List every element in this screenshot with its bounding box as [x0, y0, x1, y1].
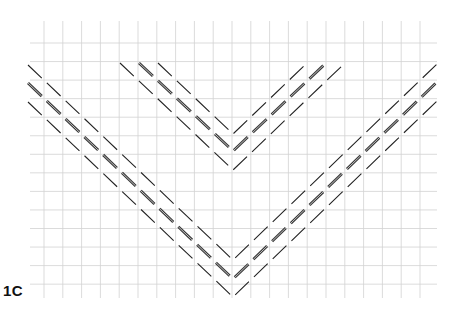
dashed-line-bottom — [28, 101, 437, 297]
figure-label: 1C — [3, 282, 23, 299]
diagram-canvas — [0, 0, 458, 318]
chevron-pattern — [28, 63, 437, 297]
dashed-line-top — [28, 64, 437, 260]
dashed-line-middle — [28, 82, 437, 279]
dashed-line-middle — [28, 82, 437, 279]
